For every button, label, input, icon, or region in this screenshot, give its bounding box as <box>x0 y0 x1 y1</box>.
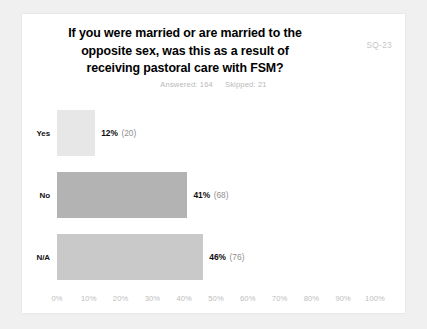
x-axis-tick-label: 90% <box>335 294 351 303</box>
answered-count: Answered: 164 <box>160 80 213 89</box>
bar-value-label: 12%(20) <box>101 128 136 138</box>
x-axis-tick-label: 40% <box>176 294 192 303</box>
card-header: If you were married or are married to th… <box>22 14 405 100</box>
bar-count: (76) <box>230 252 245 262</box>
x-axis-tick-label: 60% <box>240 294 256 303</box>
x-axis-tick-label: 100% <box>365 294 385 303</box>
bar-count: (68) <box>214 190 229 200</box>
bar-count: (20) <box>121 128 136 138</box>
bar-category-label: Yes <box>22 129 50 138</box>
skipped-count: Skipped: 21 <box>225 80 267 89</box>
bar-category-label: N/A <box>22 253 50 262</box>
x-axis-tick-label: 80% <box>304 294 320 303</box>
x-axis: 0%10%20%30%40%50%60%70%80%90%100% <box>57 294 375 308</box>
x-axis-tick-label: 10% <box>81 294 97 303</box>
x-axis-tick-label: 70% <box>272 294 288 303</box>
title-line-2: opposite sex, was this as a result of <box>40 43 330 61</box>
bar[interactable] <box>57 234 203 280</box>
bar-value-label: 46%(76) <box>209 252 244 262</box>
x-axis-tick-label: 0% <box>51 294 62 303</box>
chart-row: N/A46%(76) <box>22 234 405 280</box>
x-axis-tick-label: 20% <box>113 294 129 303</box>
bar-value-label: 41%(68) <box>193 190 228 200</box>
bar[interactable] <box>57 110 95 156</box>
page-title: If you were married or are married to th… <box>40 25 330 78</box>
page-background: If you were married or are married to th… <box>0 0 427 329</box>
chart-row: Yes12%(20) <box>22 110 405 156</box>
bar[interactable] <box>57 172 187 218</box>
bar-percent: 46% <box>209 252 226 262</box>
survey-result-card: If you were married or are married to th… <box>22 14 405 313</box>
bar-percent: 12% <box>101 128 118 138</box>
bar-chart: Yes12%(20)No41%(68)N/A46%(76) <box>22 110 405 300</box>
x-axis-tick-label: 50% <box>208 294 224 303</box>
question-code-badge: SQ-23 <box>367 40 392 50</box>
chart-row: No41%(68) <box>22 172 405 218</box>
bar-percent: 41% <box>193 190 210 200</box>
x-axis-tick-label: 30% <box>145 294 161 303</box>
response-summary: Answered: 164Skipped: 21 <box>22 80 405 89</box>
bar-category-label: No <box>22 191 50 200</box>
title-line-3: receiving pastoral care with FSM? <box>40 60 330 78</box>
title-line-1: If you were married or are married to th… <box>40 25 330 43</box>
